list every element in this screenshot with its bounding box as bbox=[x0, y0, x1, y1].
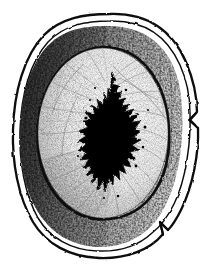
engraving-illustration: Cross-section engraving Black-and-white … bbox=[0, 0, 216, 272]
notch-lower-right bbox=[160, 222, 168, 235]
figure-container: Cross-section engraving Black-and-white … bbox=[0, 0, 216, 272]
